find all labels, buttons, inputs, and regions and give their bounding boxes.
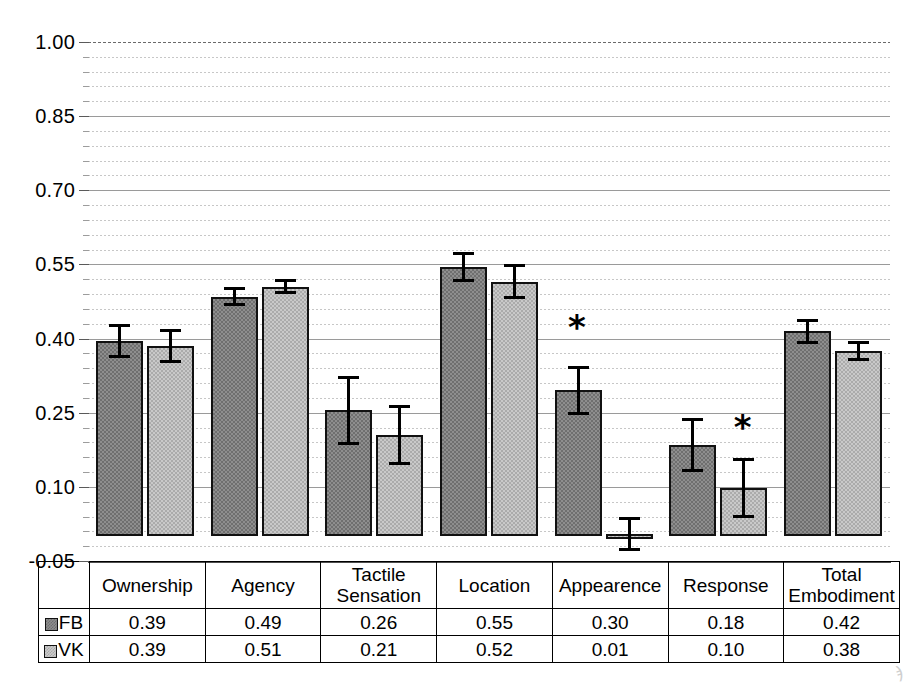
table-data-cell: 0.01 bbox=[552, 636, 668, 663]
table-data-cell: 0.52 bbox=[437, 636, 553, 663]
gridline-minor bbox=[88, 86, 890, 87]
gridline-minor bbox=[88, 502, 890, 503]
gridline-minor bbox=[88, 309, 890, 310]
gridline-minor bbox=[88, 101, 890, 102]
error-bar-stem bbox=[577, 366, 580, 415]
gridline-major bbox=[88, 487, 890, 488]
table-data-cell: 0.39 bbox=[90, 636, 206, 663]
gridline-minor bbox=[88, 235, 890, 236]
y-axis-minor-tick bbox=[83, 57, 89, 58]
table-data-cell: 0.18 bbox=[668, 609, 784, 636]
y-axis-minor-tick bbox=[83, 517, 89, 518]
y-axis-minor-tick bbox=[83, 146, 89, 147]
error-bar-stem bbox=[347, 376, 350, 445]
table-data-cell: 0.38 bbox=[784, 636, 900, 663]
gridline-minor bbox=[88, 428, 890, 429]
y-axis-minor-tick bbox=[83, 368, 89, 369]
error-bar-cap bbox=[275, 279, 296, 282]
table-header-line1: Appearence bbox=[553, 575, 668, 596]
y-axis-minor-tick bbox=[83, 279, 89, 280]
gridline-minor bbox=[88, 205, 890, 206]
y-axis-minor-tick bbox=[83, 235, 89, 236]
y-axis-tick bbox=[79, 116, 89, 117]
data-table-wrapper: OwnershipAgencyTactileSensationLocationA… bbox=[38, 561, 891, 661]
error-bar-stem bbox=[513, 264, 516, 299]
y-axis-minor-tick bbox=[83, 546, 89, 547]
table-data-cell: 0.49 bbox=[205, 609, 321, 636]
y-axis-tick bbox=[79, 264, 89, 265]
error-bar-cap bbox=[389, 462, 410, 465]
table-data-cell: 0.55 bbox=[437, 609, 553, 636]
significance-star: * bbox=[734, 410, 752, 444]
error-bar-stem bbox=[398, 405, 401, 464]
error-bar-cap bbox=[504, 296, 525, 299]
gridline-minor bbox=[88, 398, 890, 399]
gridline-minor bbox=[88, 57, 890, 58]
error-bar-cap bbox=[682, 418, 703, 421]
error-bar-stem bbox=[742, 458, 745, 517]
y-axis-tick-label: 0.40 bbox=[3, 329, 75, 349]
table-data-cell: 0.30 bbox=[552, 609, 668, 636]
error-bar-cap bbox=[619, 517, 640, 520]
gridline-minor bbox=[88, 531, 890, 532]
y-axis-minor-tick bbox=[83, 353, 89, 354]
y-axis-tick bbox=[79, 487, 89, 488]
y-axis-minor-tick bbox=[83, 457, 89, 458]
table-header-line1: Tactile bbox=[321, 564, 436, 585]
y-axis-tick-label: 0.25 bbox=[3, 403, 75, 423]
error-bar-cap bbox=[733, 458, 754, 461]
error-bar-stem bbox=[628, 517, 631, 552]
y-axis-tick-label: 0.55 bbox=[3, 254, 75, 274]
gridline-minor bbox=[88, 517, 890, 518]
bar-fb-location bbox=[440, 267, 487, 536]
gridline-minor bbox=[88, 353, 890, 354]
vk-pattern-swatch bbox=[44, 645, 57, 658]
bar-fb-ownership bbox=[96, 341, 143, 536]
table-row: VK0.390.510.210.520.010.100.38 bbox=[39, 636, 900, 663]
gridline-major bbox=[88, 264, 890, 265]
plot-area: ** bbox=[88, 42, 890, 561]
error-bar-cap bbox=[109, 355, 130, 358]
error-bar-cap bbox=[568, 412, 589, 415]
error-bar-cap bbox=[848, 341, 869, 344]
error-bar-cap bbox=[224, 287, 245, 290]
error-bar-cap bbox=[848, 358, 869, 361]
y-axis-minor-tick bbox=[83, 72, 89, 73]
gridline-minor bbox=[88, 324, 890, 325]
table-data-cell: 0.26 bbox=[321, 609, 437, 636]
table-header-cell: TactileSensation bbox=[321, 562, 437, 609]
gridline-minor bbox=[88, 131, 890, 132]
y-axis-tick bbox=[79, 339, 89, 340]
error-bar-cap bbox=[797, 341, 818, 344]
error-bar-cap bbox=[733, 515, 754, 518]
legend-cell-vk: VK bbox=[39, 636, 90, 663]
gridline-minor bbox=[88, 457, 890, 458]
error-bar-cap bbox=[504, 264, 525, 267]
error-bar-cap bbox=[619, 548, 640, 551]
error-bar-cap bbox=[568, 366, 589, 369]
y-axis-tick bbox=[79, 413, 89, 414]
y-axis-minor-tick bbox=[83, 383, 89, 384]
y-axis-minor-tick bbox=[83, 175, 89, 176]
error-bar-cap bbox=[797, 319, 818, 322]
table-header-cell: TotalEmbodiment bbox=[784, 562, 900, 609]
y-axis-minor-tick bbox=[83, 101, 89, 102]
y-axis-tick-label: 0.85 bbox=[3, 106, 75, 126]
table-header-cell: Agency bbox=[205, 562, 321, 609]
bar-vk-agency bbox=[262, 287, 309, 537]
gridline-minor bbox=[88, 220, 890, 221]
table-data-cell: 0.39 bbox=[90, 609, 206, 636]
gridline-minor bbox=[88, 442, 890, 443]
gridline-major bbox=[88, 42, 890, 43]
table-header-line2: Sensation bbox=[321, 585, 436, 606]
y-axis-tick bbox=[79, 190, 89, 191]
y-axis-tick-label: 1.00 bbox=[3, 32, 75, 52]
gridline-minor bbox=[88, 383, 890, 384]
y-axis-minor-tick bbox=[83, 86, 89, 87]
y-axis-tick bbox=[79, 42, 89, 43]
table-data-cell: 0.10 bbox=[668, 636, 784, 663]
y-axis-minor-tick bbox=[83, 250, 89, 251]
y-axis-labels: 1.000.850.700.550.400.250.10-0.05 bbox=[0, 0, 75, 600]
y-axis-minor-tick bbox=[83, 442, 89, 443]
gridline-minor bbox=[88, 250, 890, 251]
